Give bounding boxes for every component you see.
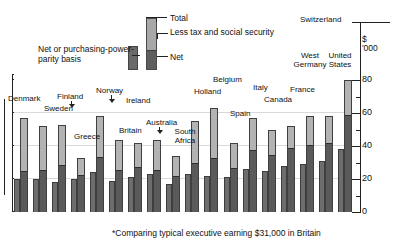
ppp-basis-caption: Net or purchasing-power-parity basis — [38, 44, 142, 64]
bar-total — [306, 116, 314, 212]
chart-root: Total Less tax and social security Net N… — [0, 0, 396, 244]
label-pointer-arrow — [69, 104, 75, 108]
bar-total — [325, 116, 333, 212]
bar-total — [210, 108, 218, 212]
bar-total — [153, 140, 161, 212]
country-label-holland: Holland — [194, 88, 221, 97]
label-pointer-arrow — [109, 99, 115, 103]
y-axis-label-60: 60 — [362, 107, 372, 117]
bar-total — [230, 143, 238, 212]
bar-net-segment — [288, 148, 294, 212]
y-tick-right-0 — [352, 212, 361, 213]
y-tick-right-60 — [352, 113, 361, 114]
bar-group — [319, 72, 333, 212]
bar-net-segment — [116, 170, 122, 212]
bar-group — [33, 72, 47, 212]
y-axis-label-40: 40 — [362, 140, 372, 150]
bar-net-segment — [59, 165, 65, 212]
bar-group — [338, 72, 352, 212]
country-label-britain: Britain — [119, 127, 142, 136]
bar-net-segment — [250, 150, 256, 212]
bar-total — [39, 126, 47, 212]
y-tick-minor-10 — [356, 196, 361, 197]
legend-leader-less-h — [157, 33, 168, 34]
bar-net-segment — [78, 175, 84, 212]
country-label-canada: Canada — [264, 96, 292, 105]
y-tick-right-40 — [352, 146, 361, 147]
legend-leader-less-v — [157, 33, 158, 39]
bar-net-segment — [211, 158, 217, 212]
bar-total — [287, 126, 295, 212]
y-tick-minor-70 — [356, 97, 361, 98]
y-axis-label-0: 0 — [362, 206, 367, 216]
bar-group — [262, 72, 276, 212]
country-label-france: France — [290, 86, 315, 95]
bar-total — [268, 130, 276, 212]
unit-thousands: '000 — [362, 44, 378, 53]
y-tick-minor-30 — [356, 163, 361, 164]
bar-net-segment — [307, 145, 313, 212]
bar-net-segment — [40, 170, 46, 212]
bar-total — [96, 116, 104, 212]
bar-group — [243, 72, 257, 212]
label-bracket — [4, 99, 21, 195]
bar-net-segment — [231, 168, 237, 212]
y-tick-minor-50 — [356, 130, 361, 131]
bar-net-segment — [21, 171, 27, 212]
country-label-belgium: Belgium — [213, 76, 242, 85]
bar-net-segment — [192, 163, 198, 212]
bar-group — [128, 72, 142, 212]
legend-leader-net-h — [157, 56, 168, 57]
country-label-australia: Australia — [146, 119, 177, 128]
legend-label-total: Total — [170, 14, 188, 24]
bar-net-segment — [269, 155, 275, 212]
y-axis-unit-label: $ '000 — [362, 35, 378, 53]
country-label-ireland: Ireland — [126, 97, 150, 106]
bar-net-segment — [154, 170, 160, 212]
bar-net-segment — [326, 143, 332, 212]
bar-total — [134, 143, 142, 212]
bar-net-segment — [97, 157, 103, 212]
bar-total — [344, 80, 352, 212]
bar-total — [172, 156, 180, 212]
legend-leader-total-arm — [157, 17, 167, 18]
bar-total — [20, 118, 28, 212]
chart-footnote: *Comparing typical executive earning $31… — [112, 228, 321, 238]
country-label-italy: Italy — [253, 84, 268, 93]
country-label-spain: Spain — [230, 110, 250, 119]
legend-swatch-net — [147, 50, 156, 69]
y-axis-top-cap — [352, 22, 390, 23]
y-axis-label-80: 80 — [362, 74, 372, 84]
label-pointer-arrow — [157, 130, 163, 134]
legend-leader-total-h — [146, 17, 156, 18]
y-tick-right-80 — [352, 80, 361, 81]
bar-group — [224, 72, 238, 212]
y-tick-right-20 — [352, 179, 361, 180]
legend-label-less-tax: Less tax and social security — [170, 28, 280, 38]
bar-net-segment — [173, 176, 179, 212]
bar-total — [58, 125, 66, 212]
bar-total — [115, 140, 123, 212]
country-label-greece: Greece — [74, 133, 100, 142]
country-label-south-africa: South Africa — [168, 128, 202, 145]
country-label-switzerland: Switzerland — [300, 16, 341, 25]
bar-net-segment — [345, 115, 351, 212]
legend-label-net: Net — [170, 53, 183, 63]
bar-total — [77, 158, 85, 212]
bar-net-segment — [135, 167, 141, 212]
country-label-norway: Norway — [96, 87, 123, 96]
y-axis-right — [352, 22, 361, 212]
ppp-caption-leader — [132, 55, 140, 56]
y-axis-label-20: 20 — [362, 173, 372, 183]
legend-swatch-total — [146, 18, 157, 70]
bar-group — [147, 72, 161, 212]
bar-total — [249, 118, 257, 212]
